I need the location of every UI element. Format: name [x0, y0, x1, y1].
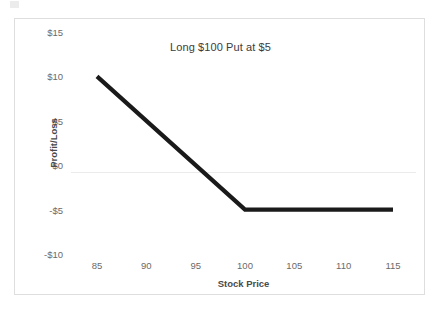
- payoff-line: [97, 76, 393, 209]
- y-tick-label-15: $15: [23, 27, 63, 38]
- x-tick-label-115: 115: [373, 260, 413, 271]
- y-tick-label-neg5: -$5: [23, 204, 63, 215]
- capture-artifact: [10, 1, 19, 8]
- chart-frame: Long $100 Put at $5 $15 $10 $5 $0 -$5 -$…: [14, 18, 425, 295]
- x-tick-label-110: 110: [324, 260, 364, 271]
- x-tick-label-90: 90: [126, 260, 166, 271]
- payoff-series: [71, 32, 416, 254]
- plot-area: $15 $10 $5 $0 -$5 -$10 85 90 95 100 105 …: [71, 32, 416, 254]
- x-tick-label-105: 105: [274, 260, 314, 271]
- x-tick-label-100: 100: [225, 260, 265, 271]
- x-tick-label-85: 85: [77, 260, 117, 271]
- x-axis-title: Stock Price: [218, 278, 270, 289]
- y-axis-title: Profit/Loss: [48, 118, 59, 168]
- x-tick-label-95: 95: [176, 260, 216, 271]
- y-tick-label-neg10: -$10: [23, 249, 63, 260]
- chart-screenshot: Long $100 Put at $5 $15 $10 $5 $0 -$5 -$…: [0, 0, 441, 317]
- y-tick-label-10: $10: [23, 71, 63, 82]
